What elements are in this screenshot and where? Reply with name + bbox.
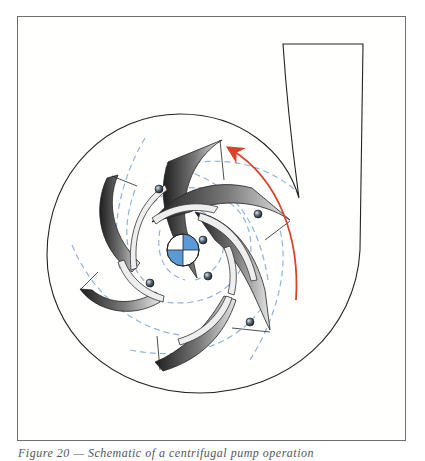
figure-caption: Figure 20 — Schematic of a centrifugal p… <box>18 446 314 461</box>
hub-shaft <box>167 234 199 266</box>
rotation-arrow <box>232 150 296 300</box>
